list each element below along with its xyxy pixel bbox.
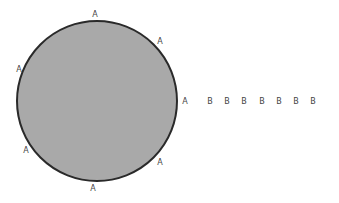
a-label: A xyxy=(157,158,163,167)
b-labels: BBBBBBB xyxy=(207,97,316,106)
a-label: A xyxy=(92,10,98,19)
gray-circle xyxy=(17,21,177,181)
b-label: B xyxy=(293,97,299,106)
b-label: B xyxy=(259,97,265,106)
b-label: B xyxy=(276,97,282,106)
b-label: B xyxy=(310,97,316,106)
a-label: A xyxy=(157,37,163,46)
diagram-canvas: AAAAAAA BBBBBBB xyxy=(0,0,339,203)
b-label: B xyxy=(241,97,247,106)
a-label: A xyxy=(16,65,22,74)
b-label: B xyxy=(224,97,230,106)
b-label: B xyxy=(207,97,213,106)
a-label: A xyxy=(23,146,29,155)
a-label: A xyxy=(90,184,96,193)
a-label: A xyxy=(182,97,188,106)
